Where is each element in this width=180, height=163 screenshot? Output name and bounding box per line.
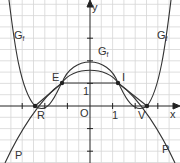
gf-inner-label: Gf xyxy=(98,46,109,58)
x-axis-label: x xyxy=(170,109,176,120)
function-graph-diagram: y x O 1 1 Gf Gf Gf P P E I R V xyxy=(0,0,180,163)
point-r-label: R xyxy=(37,110,45,121)
point-e-label: E xyxy=(52,72,59,83)
y-axis-label: y xyxy=(92,2,98,13)
p-left-label: P xyxy=(15,150,22,161)
point-e xyxy=(60,81,64,85)
point-r xyxy=(33,104,37,108)
point-i-label: I xyxy=(122,72,125,83)
axes xyxy=(0,0,180,163)
unit-x-label: 1 xyxy=(112,110,118,121)
plot-area xyxy=(0,0,180,163)
point-v-label: V xyxy=(138,110,145,121)
point-i xyxy=(116,81,120,85)
gf-left-label: Gf xyxy=(14,30,25,42)
gf-right-label: Gf xyxy=(157,30,168,42)
point-v xyxy=(145,104,149,108)
unit-y-label: 1 xyxy=(83,86,89,97)
origin-label: O xyxy=(80,108,89,119)
p-right-label: P xyxy=(162,144,169,155)
